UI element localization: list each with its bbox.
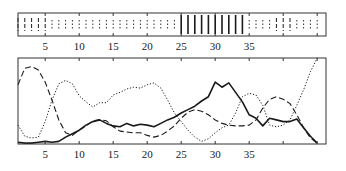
figure: 5101520253035 5101520253035	[0, 0, 346, 171]
x-tick-label: 20	[142, 40, 154, 52]
x-tick-label: 20	[142, 148, 154, 160]
line-series-group	[18, 58, 317, 143]
series-dotted-line	[18, 58, 317, 141]
x-tick-label: 30	[210, 40, 222, 52]
x-tick-label: 30	[210, 148, 222, 160]
x-tick-label: 35	[244, 148, 256, 160]
x-tick-label: 10	[74, 40, 86, 52]
x-tick-label: 25	[176, 148, 188, 160]
strip-plot: 5101520253035	[18, 13, 326, 52]
line-plot-frame	[18, 58, 326, 144]
strip-markers	[18, 15, 317, 34]
x-tick-label: 10	[74, 148, 86, 160]
series-dashed-line	[18, 67, 317, 144]
x-tick-label: 15	[108, 148, 120, 160]
series-solid-line	[18, 82, 317, 143]
strip-x-tick-labels: 5101520253035	[42, 40, 255, 52]
line-plot: 5101520253035	[18, 58, 326, 160]
strip-frame	[18, 13, 326, 36]
x-tick-label: 5	[42, 148, 48, 160]
x-tick-label: 25	[176, 40, 188, 52]
x-tick-label: 5	[42, 40, 48, 52]
line-x-tick-labels: 5101520253035	[42, 148, 255, 160]
x-tick-label: 15	[108, 40, 120, 52]
x-tick-label: 35	[244, 40, 256, 52]
line-x-ticks	[45, 58, 317, 144]
